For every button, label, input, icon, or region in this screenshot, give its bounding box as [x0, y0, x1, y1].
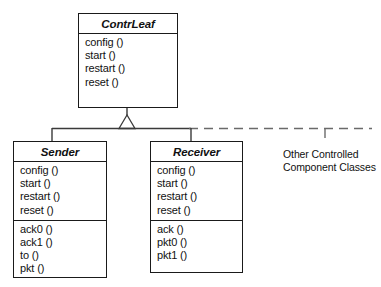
class-methods-sender-specific: ack0 () ack1 () to () pkt (): [14, 220, 106, 279]
generalization-triangle-icon: [119, 115, 135, 129]
method-row: restart (): [20, 190, 106, 203]
annotation-line: Component Classes: [283, 161, 376, 174]
method-row: restart (): [157, 190, 242, 203]
class-methods-contrleaf: config () start () restart () reset (): [79, 34, 177, 92]
method-row: reset (): [85, 76, 177, 89]
method-row: ack0 (): [20, 223, 106, 236]
method-row: to (): [20, 249, 106, 262]
class-methods-receiver-specific: ack () pkt0 () pkt1 (): [151, 220, 242, 266]
uml-class-receiver[interactable]: Receiver config () start () restart () r…: [150, 141, 243, 273]
method-row: config (): [157, 164, 242, 177]
uml-class-contrleaf[interactable]: ContrLeaf config () start () restart () …: [78, 13, 178, 108]
class-title-receiver: Receiver: [151, 142, 242, 162]
method-row: start (): [20, 177, 106, 190]
uml-class-sender[interactable]: Sender config () start () restart () res…: [13, 141, 107, 278]
class-title-sender: Sender: [14, 142, 106, 162]
method-row: config (): [85, 36, 177, 49]
class-methods-sender-inherited: config () start () restart () reset (): [14, 162, 106, 220]
method-row: reset (): [20, 204, 106, 217]
method-row: ack1 (): [20, 236, 106, 249]
annotation-line: Other Controlled: [283, 148, 376, 161]
method-row: pkt (): [20, 262, 106, 275]
method-row: config (): [20, 164, 106, 177]
method-row: start (): [85, 49, 177, 62]
generalization-connectors: [52, 108, 372, 144]
method-row: pkt0 (): [157, 236, 242, 249]
annotation-other-controlled-component-classes: Other Controlled Component Classes: [283, 148, 376, 174]
method-row: restart (): [85, 62, 177, 75]
method-row: pkt1 (): [157, 249, 242, 262]
class-methods-receiver-inherited: config () start () restart () reset (): [151, 162, 242, 220]
method-row: reset (): [157, 204, 242, 217]
class-title-contrleaf: ContrLeaf: [79, 14, 177, 34]
method-row: start (): [157, 177, 242, 190]
method-row: ack (): [157, 223, 242, 236]
